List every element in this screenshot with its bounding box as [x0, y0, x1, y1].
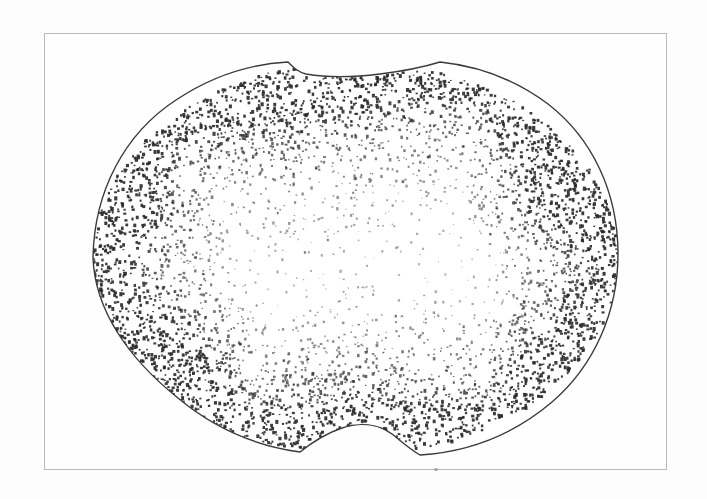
figure-stage: [45, 34, 666, 469]
specimen-drawing: [45, 34, 666, 469]
border-ink-fleck: [434, 468, 438, 471]
caption-zone: [0, 476, 707, 499]
figure-page: [0, 0, 707, 499]
